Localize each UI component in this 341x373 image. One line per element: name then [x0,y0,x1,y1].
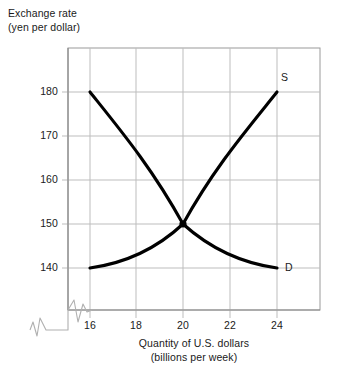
exchange-rate-graph-figure: Exchange rate (yen per dollar) [0,0,341,373]
y-tick-label-160: 160 [28,173,58,185]
supply-curve-label: S [281,71,288,83]
plot-canvas [0,0,341,373]
plot-frame [68,48,320,310]
y-tick-label-140: 140 [28,261,58,273]
x-axis-title-line1: Quantity of U.S. dollars [139,337,249,349]
x-tick-label-16: 16 [77,319,103,331]
x-tick-label-18: 18 [123,319,149,331]
y-tick-label-180: 180 [28,85,58,97]
x-axis-title-line2: (billions per week) [68,350,320,364]
y-axis-break-zigzag-icon [30,310,68,336]
equilibrium-point-marker [179,220,186,227]
x-tick-label-24: 24 [264,319,290,331]
y-tick-label-150: 150 [28,217,58,229]
x-axis-title: Quantity of U.S. dollars (billions per w… [68,336,320,364]
demand-curve-label: D [285,261,293,273]
x-tick-label-20: 20 [170,319,196,331]
y-tick-label-170: 170 [28,129,58,141]
x-tick-label-22: 22 [217,319,243,331]
